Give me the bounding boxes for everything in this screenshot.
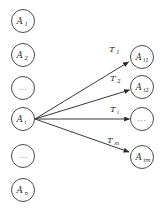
right-column-nodes: Ai1Ai2...Aim xyxy=(131,46,154,169)
node-Ai2: Ai2 xyxy=(131,76,154,99)
node-An: An xyxy=(12,179,35,202)
node-label-Aim: A xyxy=(135,152,142,162)
node-circle-A1 xyxy=(12,10,35,33)
node-label-dots-top: ... xyxy=(19,84,27,92)
node-Ai: Ai xyxy=(12,108,35,131)
node-dots-bot: ... xyxy=(12,145,35,168)
edge-label-text-edge-T2: T xyxy=(110,74,116,83)
node-label-Ai1: A xyxy=(135,52,142,62)
node-circle-A2 xyxy=(12,44,35,67)
node-label-dots-mid: ... xyxy=(138,115,146,123)
node-circle-An xyxy=(12,179,35,202)
edge-label-subscript-edge-Tm: m xyxy=(114,140,119,146)
node-circle-Ai1 xyxy=(131,46,154,69)
node-label-A2: A xyxy=(16,50,23,60)
node-label-A1: A xyxy=(16,16,23,26)
edge-label-edge-Tm: Tm xyxy=(107,136,119,146)
node-label-An: A xyxy=(16,185,23,195)
edge-Ai-to-Aim xyxy=(35,119,129,152)
edge-label-edge-T1: T1 xyxy=(109,45,119,55)
node-subscript-Ai2: i2 xyxy=(143,87,149,93)
node-subscript-Aim: im xyxy=(143,157,150,163)
node-label-dots-bot: ... xyxy=(19,152,27,160)
left-column-nodes: A1A2...Ai...An xyxy=(12,10,35,202)
node-subscript-A1: 1 xyxy=(24,21,28,27)
edge-label-text-edge-T1: T xyxy=(109,45,115,54)
node-label-Ai2: A xyxy=(135,82,142,92)
node-A1: A1 xyxy=(12,10,35,33)
node-subscript-Ai1: i1 xyxy=(143,57,148,63)
activity-decomposition-diagram: A1A2...Ai...An Ai1Ai2...Aim T1T2TiTm xyxy=(0,0,164,211)
edge-label-edge-Ti: Ti xyxy=(110,105,119,115)
node-subscript-A2: 2 xyxy=(23,55,28,61)
node-dots-mid: ... xyxy=(131,108,154,131)
node-Ai1: Ai1 xyxy=(131,46,154,69)
node-dots-top: ... xyxy=(12,77,35,100)
node-A2: A2 xyxy=(12,44,35,67)
edge-label-text-edge-Tm: T xyxy=(107,136,113,145)
node-label-Ai: A xyxy=(16,114,23,124)
edge-label-text-edge-Ti: T xyxy=(110,105,116,114)
node-Aim: Aim xyxy=(131,146,154,169)
node-subscript-An: n xyxy=(24,190,28,196)
edge-label-subscript-edge-T2: 2 xyxy=(116,78,121,84)
edge-label-edge-T2: T2 xyxy=(110,74,121,84)
edge-label-subscript-edge-Ti: i xyxy=(117,109,119,115)
node-subscript-Ai: i xyxy=(24,119,26,125)
node-circle-Ai2 xyxy=(131,76,154,99)
node-circle-Ai xyxy=(12,108,35,131)
edge-label-subscript-edge-T1: 1 xyxy=(116,49,119,55)
